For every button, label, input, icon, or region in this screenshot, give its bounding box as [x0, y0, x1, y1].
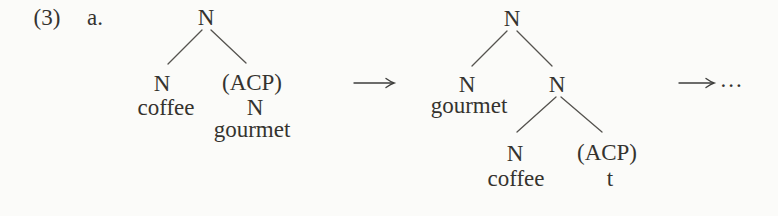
- tree2-right-right-node-label: (ACP): [577, 141, 637, 164]
- derivation-ellipsis: ...: [720, 68, 743, 91]
- tree1-right-subnode-label: N: [247, 96, 264, 119]
- tree2-root-node-label: N: [504, 7, 521, 30]
- tree1-right-terminal: gourmet: [214, 118, 291, 141]
- rightwards-arrow-icon: [354, 79, 394, 88]
- tree2-right-left-node-label: N: [507, 142, 524, 165]
- tree2-right-right-terminal-trace: t: [607, 167, 613, 190]
- tree2-right-node-label: N: [549, 73, 566, 96]
- tree2-right-left-terminal: coffee: [487, 167, 544, 190]
- rightwards-arrow-icon: [679, 79, 714, 88]
- tree2-left-terminal: gourmet: [431, 94, 508, 117]
- example-number: (3): [34, 6, 61, 29]
- tree-edges-and-arrows: [0, 0, 778, 216]
- example-item-letter: a.: [87, 6, 103, 29]
- tree1-branches: [168, 30, 246, 64]
- tree1-left-node-label: N: [154, 72, 171, 95]
- tree1-root-node-label: N: [198, 6, 215, 29]
- tree1-right-node-label: (ACP): [222, 71, 282, 94]
- tree1-left-terminal: coffee: [137, 96, 194, 119]
- scanned-paper-page: (3) a. N N coffee (ACP) N gourmet N N go…: [0, 0, 778, 216]
